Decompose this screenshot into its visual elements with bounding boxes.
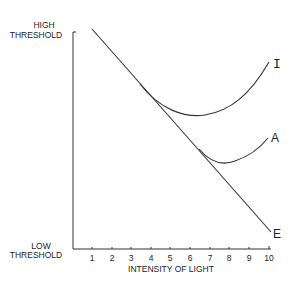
curve-I-label: I	[273, 57, 281, 72]
x-tick-6: 6	[188, 253, 193, 263]
x-tick-9: 9	[247, 253, 252, 263]
curves	[92, 29, 271, 232]
x-axis-label: INTENSITY OF LIGHT	[128, 264, 214, 274]
x-tick-7: 7	[208, 253, 213, 263]
axes	[73, 32, 271, 249]
y-top-label-line1: HIGH	[33, 20, 54, 30]
x-tick-3: 3	[129, 253, 134, 263]
curve-I	[140, 62, 269, 116]
y-top-label-line2: THRESHOLD	[10, 30, 62, 40]
x-tick-5: 5	[168, 253, 173, 263]
x-tick-4: 4	[149, 253, 154, 263]
curve-E	[92, 29, 271, 232]
x-tick-labels: 1 2 3 4 5 6 7 8 9 10	[90, 253, 274, 263]
x-tick-1: 1	[90, 253, 95, 263]
curve-A-label: A	[271, 131, 279, 145]
x-tick-8: 8	[227, 253, 232, 263]
x-tick-10: 10	[264, 253, 274, 263]
y-bottom-label-line2: THRESHOLD	[10, 250, 62, 260]
threshold-chart: 1 2 3 4 5 6 7 8 9 10 INTENSITY OF LIGHT …	[0, 0, 298, 287]
curve-A	[199, 138, 268, 163]
curve-E-label: E	[273, 227, 281, 241]
x-tick-2: 2	[110, 253, 115, 263]
